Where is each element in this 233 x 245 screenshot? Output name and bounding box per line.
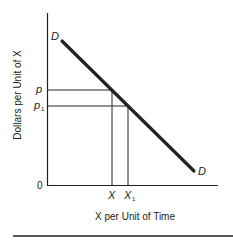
demand-label-top: D	[51, 30, 59, 42]
demand-curve-chart: D D p p 1 0 X X 1 X per Unit of Time Dol…	[0, 0, 233, 245]
quantity-label-x: X	[107, 189, 116, 201]
demand-label-bottom: D	[198, 165, 206, 177]
price-label-p: p	[35, 83, 42, 95]
price-label-p1: p	[33, 99, 40, 111]
origin-label: 0	[37, 180, 43, 191]
quantity-label-x1: X	[123, 189, 132, 201]
quantity-label-x1-subscript: 1	[132, 196, 136, 202]
price-label-p1-subscript: 1	[41, 106, 45, 112]
x-axis-title: X per Unit of Time	[95, 211, 175, 222]
y-axis-title: Dollars per Unit of X	[12, 50, 23, 140]
